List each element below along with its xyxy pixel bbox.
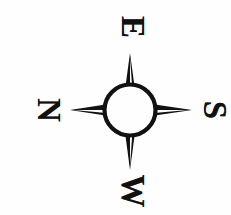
cardinal-label-west: W bbox=[111, 167, 149, 215]
compass-center-circle bbox=[105, 85, 156, 136]
cardinal-label-north: N bbox=[27, 88, 65, 132]
cardinal-label-east: E bbox=[111, 5, 149, 49]
cardinal-label-south: S bbox=[193, 90, 231, 130]
compass-rose-figure: E S W N bbox=[0, 0, 231, 215]
